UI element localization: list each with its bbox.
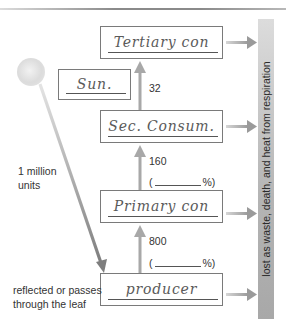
energy-loss-label: lost as waste, death, and heat from resp… (260, 19, 272, 319)
producer-label: producer (101, 280, 222, 296)
percent-input-line[interactable] (155, 185, 201, 186)
reflected-note-label: reflected or passes through the leaf (13, 283, 102, 311)
sun-label: Sun. (59, 75, 130, 91)
loss-arrow-tertiary (226, 36, 257, 49)
incoming-energy-line-2: units (18, 178, 57, 192)
percent-input-line[interactable] (155, 266, 201, 267)
trophic-level-secondary-box: Sec. Consum. (100, 110, 223, 143)
percent-suffix: %) (203, 176, 216, 188)
transfer-arrow-producer-primary (134, 225, 146, 273)
secondary-label: Sec. Consum. (101, 117, 222, 133)
energy-value-tertiary: 32 (149, 82, 161, 94)
percent-blank-producer-primary[interactable]: (%) (149, 257, 215, 269)
secondary-label-underline (108, 136, 218, 137)
primary-label: Primary con (101, 197, 222, 213)
reflected-note-line-2: through the leaf (13, 297, 102, 311)
transfer-arrow-primary-secondary (134, 145, 146, 190)
trophic-level-producer-box: producer (100, 273, 223, 306)
percent-suffix: %) (203, 257, 216, 269)
sun-label-box: Sun. (58, 69, 131, 100)
tertiary-label-underline (108, 52, 218, 53)
loss-arrow-primary (226, 207, 257, 220)
percent-blank-primary-secondary[interactable]: (%) (149, 176, 215, 188)
transfer-arrow-secondary-tertiary (134, 61, 146, 110)
trophic-level-tertiary-box: Tertiary con (100, 26, 223, 59)
sun-label-underline (66, 93, 126, 94)
percent-open: ( (149, 176, 153, 188)
sun-icon (17, 58, 45, 86)
loss-arrow-secondary (226, 120, 257, 133)
percent-open: ( (149, 257, 153, 269)
primary-label-underline (108, 216, 218, 217)
reflected-note-line-1: reflected or passes (13, 283, 102, 297)
tertiary-label: Tertiary con (101, 33, 222, 49)
trophic-level-primary-box: Primary con (100, 190, 223, 223)
energy-value-secondary: 160 (149, 155, 167, 167)
incoming-energy-label: 1 million units (18, 164, 57, 192)
loss-arrow-producer (226, 288, 257, 301)
incoming-energy-line-1: 1 million (18, 164, 57, 178)
energy-value-primary: 800 (149, 235, 167, 247)
energy-loss-bar: lost as waste, death, and heat from resp… (258, 19, 274, 319)
producer-label-underline (108, 299, 218, 300)
